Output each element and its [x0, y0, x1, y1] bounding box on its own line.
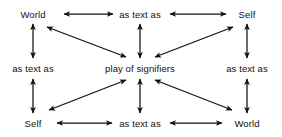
semiotic-diagram: Worldas text asSelfas text asplay of sig…: [0, 0, 282, 137]
node-bottom-right: World: [234, 118, 259, 129]
node-bottom-left: Self: [25, 118, 42, 129]
node-middle-right: as text as: [226, 63, 268, 74]
connector-center-to-bottom-right: [155, 80, 232, 110]
node-top-center: as text as: [119, 9, 161, 20]
node-top-left: World: [20, 9, 45, 20]
node-center: play of signifiers: [105, 63, 175, 74]
connector-center-to-top-right: [155, 27, 233, 57]
connector-center-to-bottom-left: [49, 80, 126, 110]
node-middle-left: as text as: [12, 63, 54, 74]
node-top-right: Self: [239, 9, 256, 20]
connector-center-to-top-left: [47, 27, 126, 57]
node-bottom-center: as text as: [119, 118, 161, 129]
